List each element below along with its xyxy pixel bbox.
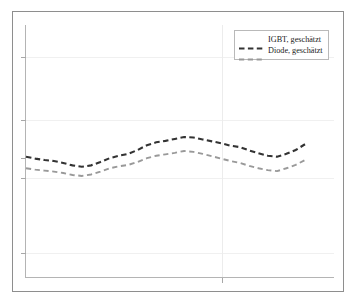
legend-entry-igbt: IGBT, geschätzt (239, 34, 323, 45)
series-line-igbt (26, 137, 305, 167)
chart-legend: IGBT, geschätzt Diode, geschätzt (234, 30, 329, 60)
chart-figure: IGBT, geschätzt Diode, geschätzt (0, 0, 356, 303)
legend-label-igbt: IGBT, geschätzt (268, 34, 321, 45)
legend-label-diode: Diode, geschätzt (268, 45, 323, 56)
